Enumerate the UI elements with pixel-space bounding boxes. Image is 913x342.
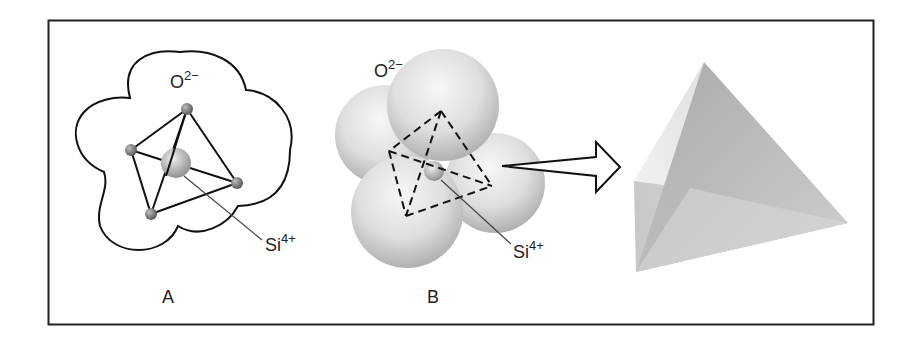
- oxygen-ion-top: [181, 103, 193, 115]
- oxygen-ion-bottom: [145, 208, 157, 220]
- panel-b: O2− Si4+ B: [335, 49, 545, 307]
- oxygen-sphere-top: [387, 49, 499, 161]
- panel-c-tetrahedron: [634, 62, 848, 272]
- silicon-label-b: Si4+: [513, 238, 544, 262]
- panel-a-caption: A: [162, 287, 174, 307]
- silicate-tetrahedron-figure: O2− Si4+ A O2− Si: [0, 0, 913, 342]
- oxygen-ion-left: [125, 144, 137, 156]
- panel-b-caption: B: [427, 287, 439, 307]
- oxygen-ion-right: [231, 177, 243, 189]
- panel-a: O2− Si4+ A: [76, 51, 296, 307]
- silicon-label-a: Si4+: [265, 231, 296, 255]
- silicon-ion-a: [161, 148, 191, 178]
